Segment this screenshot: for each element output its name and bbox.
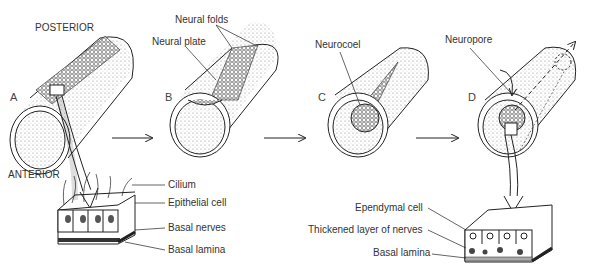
stage-d-letter: D — [468, 91, 476, 103]
cilium-label: Cilium — [168, 179, 196, 190]
basal-lamina-label-right: Basal lamina — [373, 247, 431, 258]
stage-c-tube — [328, 47, 428, 157]
stage-b-letter: B — [165, 91, 172, 103]
ependymal-cell-label: Ependymal cell — [355, 202, 423, 213]
neural-plate-label: Neural plate — [152, 36, 206, 47]
ependyma-detail — [465, 205, 552, 262]
basal-lamina-label-left: Basal lamina — [168, 244, 226, 255]
anterior-label: ANTERIOR — [8, 169, 60, 180]
posterior-label: POSTERIOR — [35, 22, 94, 33]
stage-a-letter: A — [10, 91, 18, 103]
basal-nerves-label: Basal nerves — [168, 222, 226, 233]
stage-d-tube — [478, 42, 576, 212]
stage-c-letter: C — [318, 91, 326, 103]
neural-folds-label: Neural folds — [175, 14, 228, 25]
epithelium-detail — [58, 172, 135, 244]
neuropore-label: Neuropore — [445, 34, 493, 45]
neurocoel-label: Neurocoel — [315, 39, 361, 50]
epithelial-cell-label: Epithelial cell — [168, 197, 226, 208]
stage-a-tube — [10, 36, 133, 208]
thickened-layer-label: Thickened layer of nerves — [308, 224, 423, 235]
neural-tube-diagram: POSTERIOR A ANTERIOR Neural folds Neural… — [0, 0, 594, 271]
